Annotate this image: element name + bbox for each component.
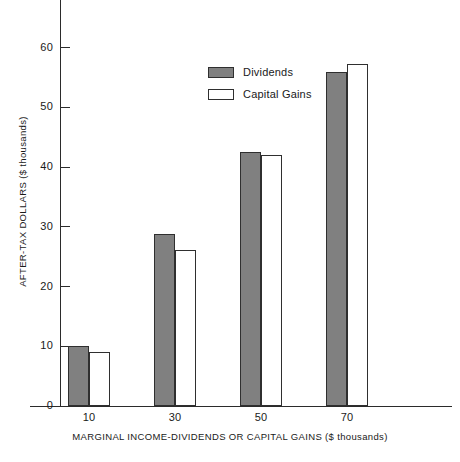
y-axis-tick-label-text: 10 — [20, 339, 53, 351]
bar-chart-figure: 0102030405060 AFTER-TAX DOLLARS ($ thous… — [0, 0, 460, 462]
bar-capital-gains-10 — [89, 352, 110, 406]
y-axis-tick-label-text: 60 — [20, 41, 53, 53]
bar-dividends-10 — [68, 346, 89, 406]
bar-capital-gains-50 — [261, 155, 282, 406]
legend-swatch-dividends-icon — [208, 67, 234, 78]
x-axis-line — [30, 406, 452, 407]
legend-item-dividends: Dividends — [208, 61, 312, 83]
x-axis-title: MARGINAL INCOME-DIVIDENDS OR CAPITAL GAI… — [0, 431, 460, 442]
legend-item-capital-gains: Capital Gains — [208, 83, 312, 105]
legend-label-dividends: Dividends — [243, 66, 293, 78]
y-axis-title: AFTER-TAX DOLLARS ($ thousands) — [17, 87, 28, 317]
y-axis-tick-label: 10 — [20, 339, 53, 353]
x-axis-tick-label: 30 — [145, 411, 205, 423]
bar-dividends-50 — [240, 152, 261, 406]
bar-capital-gains-70 — [347, 64, 368, 406]
x-axis-tick-label: 70 — [317, 411, 377, 423]
legend-swatch-capital-gains-icon — [208, 89, 234, 100]
bar-dividends-30 — [154, 234, 175, 406]
y-axis-tick-label: 60 — [20, 41, 53, 55]
legend-label-capital-gains: Capital Gains — [243, 88, 312, 100]
bar-dividends-70 — [326, 72, 347, 406]
y-axis-tick-label: 0 — [20, 399, 53, 413]
y-axis-tick-label-text: 0 — [20, 399, 53, 411]
bar-capital-gains-30 — [175, 250, 196, 406]
legend: Dividends Capital Gains — [208, 61, 312, 105]
x-axis-tick-label: 10 — [59, 411, 119, 423]
x-axis-tick-label: 50 — [231, 411, 291, 423]
